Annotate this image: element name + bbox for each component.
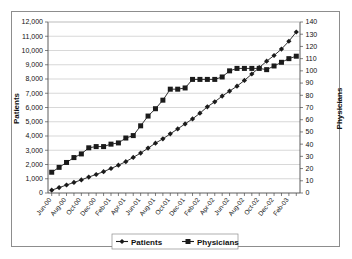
series-marker-physicians — [153, 106, 158, 111]
y-tick-label-left: 7,000 — [25, 90, 43, 97]
y-tick-label-right: 20 — [306, 165, 314, 172]
y-tick-label-left: 10,000 — [22, 47, 44, 54]
y-tick-label-left: 2,000 — [25, 161, 43, 168]
series-marker-patients — [123, 159, 128, 164]
series-marker-physicians — [71, 155, 76, 160]
series-marker-physicians — [109, 142, 114, 147]
series-marker-patients — [57, 185, 62, 190]
series-marker-physicians — [131, 133, 136, 138]
series-marker-patients — [131, 155, 136, 160]
series-marker-physicians — [242, 66, 247, 71]
series-marker-physicians — [116, 140, 121, 145]
series-marker-physicians — [64, 160, 69, 165]
y-tick-label-left: 11,000 — [22, 33, 43, 40]
series-marker-patients — [168, 131, 173, 136]
series-marker-physicians — [264, 67, 269, 72]
y-tick-label-right: 130 — [306, 31, 318, 38]
y-tick-label-left: 5,000 — [25, 118, 43, 125]
data-series-group — [49, 29, 299, 192]
series-marker-physicians — [235, 66, 240, 71]
y-tick-label-left: 0 — [39, 189, 43, 196]
series-marker-physicians — [249, 66, 254, 71]
series-line-patients — [52, 32, 297, 190]
x-tick-label: Feb-01 — [94, 196, 112, 217]
y-tick-label-right: 60 — [306, 116, 314, 123]
y-tick-label-left: 9,000 — [25, 61, 43, 68]
y-tick-label-right: 90 — [306, 79, 314, 86]
series-marker-patients — [94, 172, 99, 177]
series-marker-physicians — [94, 144, 99, 149]
y-axis-right-ticks: 0102030405060708090100110120130140 — [300, 18, 317, 196]
x-tick-label: Aug-02 — [227, 196, 246, 218]
series-marker-patients — [116, 163, 121, 168]
series-marker-patients — [175, 126, 180, 131]
legend-label: Physicians — [197, 238, 239, 247]
series-marker-patients — [108, 166, 113, 171]
y-axis-left-ticks: 01,0002,0003,0004,0005,0006,0007,0008,00… — [22, 18, 48, 196]
x-tick-label: Feb-02 — [183, 196, 201, 217]
series-marker-patients — [49, 188, 54, 193]
y-tick-label-left: 12,000 — [22, 18, 44, 25]
series-marker-physicians — [146, 114, 151, 119]
y-tick-label-right: 110 — [306, 55, 317, 62]
series-marker-physicians — [286, 56, 291, 61]
gridlines-group — [48, 22, 300, 179]
y-tick-label-right: 40 — [306, 141, 314, 148]
series-marker-physicians — [212, 77, 217, 82]
y-tick-label-left: 1,000 — [25, 175, 43, 182]
series-marker-patients — [71, 180, 76, 185]
series-marker-physicians — [101, 144, 106, 149]
y-tick-label-right: 0 — [306, 189, 310, 196]
series-marker-physicians — [190, 77, 195, 82]
series-marker-physicians — [86, 145, 91, 150]
y-tick-label-left: 8,000 — [25, 75, 43, 82]
series-marker-physicians — [272, 63, 277, 68]
legend-marker-square — [186, 239, 191, 244]
series-marker-patients — [227, 89, 232, 94]
y-tick-label-right: 70 — [306, 104, 314, 111]
series-marker-physicians — [138, 123, 143, 128]
chart-legend: PatientsPhysicians — [112, 234, 239, 249]
series-marker-physicians — [123, 136, 128, 141]
series-marker-physicians — [57, 165, 62, 170]
series-marker-physicians — [205, 77, 210, 82]
x-axis-ticks: Jun-00Aug-00Oct-00Dec-00Feb-01Apr-01Jun-… — [35, 193, 297, 218]
y-tick-label-right: 140 — [306, 18, 318, 25]
series-marker-patients — [138, 151, 143, 156]
chart-plot-svg: 01,0002,0003,0004,0005,0006,0007,0008,00… — [0, 0, 352, 259]
series-marker-physicians — [279, 60, 284, 65]
series-marker-physicians — [160, 98, 165, 103]
x-tick-label: Aug-00 — [49, 196, 68, 218]
series-marker-physicians — [183, 85, 188, 90]
series-marker-patients — [101, 169, 106, 174]
series-marker-patients — [160, 136, 165, 141]
legend-label: Patients — [131, 238, 163, 247]
y-tick-label-left: 4,000 — [25, 132, 43, 139]
series-marker-physicians — [79, 151, 84, 156]
series-marker-physicians — [168, 87, 173, 92]
y-tick-label-right: 10 — [306, 177, 314, 184]
y-tick-label-right: 100 — [306, 67, 318, 74]
y-tick-label-left: 6,000 — [25, 104, 43, 111]
x-tick-label: Aug-01 — [138, 196, 157, 218]
chart-container: Patients Physicians 01,0002,0003,0004,00… — [0, 0, 352, 259]
y-tick-label-right: 50 — [306, 128, 314, 135]
series-marker-physicians — [197, 77, 202, 82]
series-marker-patients — [64, 182, 69, 187]
y-tick-label-right: 80 — [306, 92, 314, 99]
x-tick-label: Feb-03 — [271, 196, 289, 217]
series-marker-physicians — [175, 87, 180, 92]
series-line-physicians — [52, 56, 297, 172]
series-marker-patients — [145, 146, 150, 151]
series-marker-patients — [153, 141, 158, 146]
series-marker-physicians — [49, 170, 54, 175]
series-marker-physicians — [227, 68, 232, 73]
series-marker-patients — [79, 177, 84, 182]
y-tick-label-right: 30 — [306, 153, 314, 160]
series-marker-physicians — [220, 74, 225, 79]
y-tick-label-left: 3,000 — [25, 147, 43, 154]
series-marker-patients — [183, 121, 188, 126]
series-marker-physicians — [257, 66, 262, 71]
y-tick-label-right: 120 — [306, 43, 318, 50]
series-marker-physicians — [294, 54, 299, 59]
